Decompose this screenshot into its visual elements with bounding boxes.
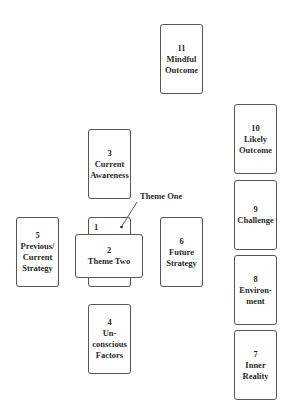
theme-one-callout-label: Theme One xyxy=(140,191,182,201)
card-10-likely-outcome: 10 Likely Outcome xyxy=(234,104,277,174)
card-number: 7 xyxy=(253,349,257,360)
card-title-line: Environ- xyxy=(239,285,271,296)
card-title-line: Theme Two xyxy=(88,256,130,267)
card-title-line: Mindful xyxy=(167,54,197,65)
card-title-line: Strategy xyxy=(22,263,53,274)
card-number: 3 xyxy=(107,148,111,159)
card-9-challenge: 9 Challenge xyxy=(234,180,277,250)
card-number: 10 xyxy=(251,123,260,134)
card-8-environment: 8 Environ- ment xyxy=(234,255,277,325)
card-number: 9 xyxy=(253,204,257,215)
card-title-line: conscious xyxy=(92,339,126,350)
card-number: 8 xyxy=(253,274,257,285)
card-title-line: Outcome xyxy=(239,145,272,156)
card-title-line: Future xyxy=(169,247,194,258)
card-title-line: Un- xyxy=(103,328,117,339)
card-7-inner-reality: 7 Inner Reality xyxy=(234,330,277,400)
card-5-previous-current-strategy: 5 Previous/ Current Strategy xyxy=(16,217,59,287)
card-title-line: Reality xyxy=(243,371,269,382)
card-number: 6 xyxy=(179,236,183,247)
card-title-line: Outcome xyxy=(165,65,198,76)
card-number: 2 xyxy=(107,245,111,256)
card-3-current-awareness: 3 Current Awareness xyxy=(88,129,131,199)
card-11-mindful-outcome: 11 Mindful Outcome xyxy=(160,24,203,94)
card-title-line: Challenge xyxy=(237,215,273,226)
card-title-line: Inner xyxy=(245,360,265,371)
card-number: 1 xyxy=(94,222,98,233)
card-title-line: Factors xyxy=(96,350,123,361)
card-number: 5 xyxy=(35,230,39,241)
card-number: 11 xyxy=(177,43,185,54)
card-2-theme-two: 2 Theme Two xyxy=(75,234,143,278)
card-title-line: Likely xyxy=(244,134,267,145)
card-title-line: Current xyxy=(95,159,125,170)
card-number: 4 xyxy=(107,317,111,328)
card-6-future-strategy: 6 Future Strategy xyxy=(160,217,203,287)
card-title-line: Strategy xyxy=(166,258,197,269)
card-title-line: Current xyxy=(23,252,53,263)
card-title-line: ment xyxy=(246,296,264,307)
card-title-line: Previous/ xyxy=(21,241,55,252)
card-title-line: Awareness xyxy=(90,170,128,181)
card-4-unconscious-factors: 4 Un- conscious Factors xyxy=(88,304,131,374)
